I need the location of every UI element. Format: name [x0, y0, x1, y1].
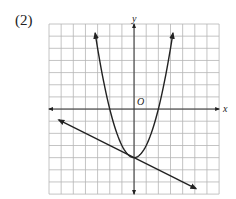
- y-axis-label: y: [131, 13, 137, 24]
- origin-label: O: [137, 96, 144, 107]
- linear-function-line: [59, 120, 196, 189]
- coordinate-plane: xyO: [0, 0, 236, 199]
- x-axis-label: x: [222, 103, 228, 114]
